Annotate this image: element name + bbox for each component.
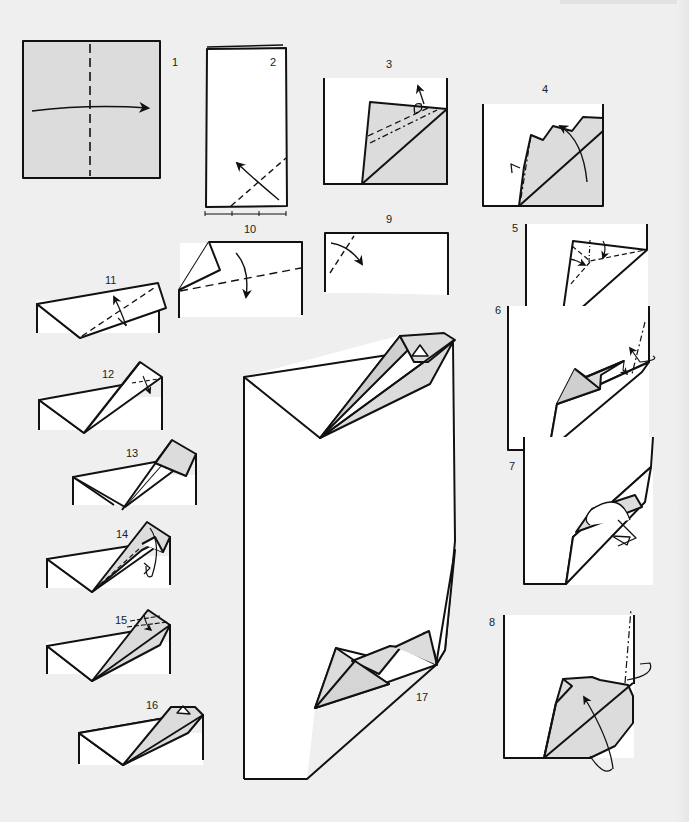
step-6-figure xyxy=(508,306,655,451)
step-8-figure xyxy=(504,609,651,771)
origami-diagram-page: 1234567891011121314151617 xyxy=(0,0,689,822)
step-number-5: 5 xyxy=(512,222,518,234)
step-15-figure xyxy=(47,610,170,681)
step-number-8: 8 xyxy=(489,616,495,628)
step-number-6: 6 xyxy=(495,304,501,316)
step-10-figure xyxy=(179,242,302,318)
step-3-figure xyxy=(324,78,447,184)
step-number-11: 11 xyxy=(105,274,116,286)
step-1-figure xyxy=(23,41,160,178)
step-number-14: 14 xyxy=(116,528,128,540)
step-number-10: 10 xyxy=(244,223,256,235)
step-9-figure xyxy=(325,233,448,295)
step-number-16: 16 xyxy=(146,699,158,711)
step-number-7: 7 xyxy=(509,460,515,472)
step-17-figure xyxy=(244,333,456,779)
step-number-2: 2 xyxy=(270,56,276,68)
step-number-12: 12 xyxy=(102,368,114,380)
diagram-canvas: 1234567891011121314151617 xyxy=(0,0,689,822)
step-11-figure xyxy=(37,283,166,338)
step-12-figure xyxy=(39,362,162,433)
step-7-figure xyxy=(524,437,653,585)
step-number-13: 13 xyxy=(126,447,138,459)
step-number-9: 9 xyxy=(386,213,392,225)
step-number-17: 17 xyxy=(416,691,428,703)
step-number-1: 1 xyxy=(172,56,178,68)
step-number-15: 15 xyxy=(115,614,127,626)
step-2-figure xyxy=(205,45,287,216)
step-4-figure xyxy=(483,104,603,206)
step-number-3: 3 xyxy=(386,58,392,70)
step-16-figure xyxy=(79,706,203,765)
step-14-figure xyxy=(47,522,170,592)
step-number-4: 4 xyxy=(542,83,548,95)
